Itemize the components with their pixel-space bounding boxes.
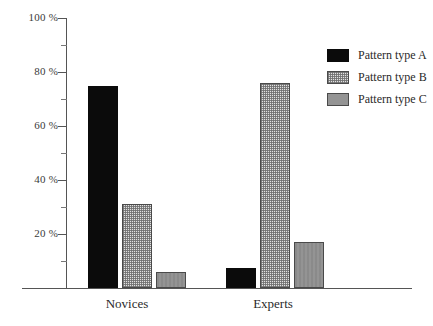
legend: Pattern type A Pattern type B Pattern ty… [327, 44, 427, 110]
bar-chart: 100 %80 %60 %40 %20 % Novices Experts Pa… [0, 0, 433, 326]
bar-novices-pattern-type-b [122, 204, 152, 288]
legend-label-pattern-c: Pattern type C [358, 93, 427, 106]
y-axis-minor-tick [61, 99, 67, 100]
solid-black-swatch-icon [327, 49, 349, 62]
x-axis-label-experts: Experts [213, 296, 333, 311]
legend-item-pattern-a: Pattern type A [327, 44, 427, 66]
solid-gray-swatch-icon [327, 93, 349, 106]
bar-experts-pattern-type-b [260, 83, 290, 288]
y-axis-major-tick [58, 180, 67, 181]
y-axis-major-tick [58, 126, 67, 127]
legend-item-pattern-b: Pattern type B [327, 66, 427, 88]
y-axis-minor-tick [61, 45, 67, 46]
y-axis-tick-label: 80 % [10, 66, 58, 77]
y-axis-tick-label: 40 % [10, 174, 58, 185]
legend-label-pattern-b: Pattern type B [358, 71, 427, 84]
x-axis-line [22, 288, 412, 289]
bar-novices-pattern-type-c [156, 272, 186, 288]
x-axis-label-novices: Novices [67, 296, 187, 311]
y-axis-tick-label: 100 % [10, 12, 58, 23]
y-axis-minor-tick [61, 153, 67, 154]
y-axis-minor-tick [61, 261, 67, 262]
legend-item-pattern-c: Pattern type C [327, 88, 427, 110]
y-axis-major-tick [58, 18, 67, 19]
legend-label-pattern-a: Pattern type A [358, 49, 427, 62]
bar-experts-pattern-type-c [294, 242, 324, 288]
y-axis-major-tick [58, 72, 67, 73]
y-axis-minor-tick [61, 207, 67, 208]
y-axis-major-tick [58, 234, 67, 235]
bar-novices-pattern-type-a [88, 86, 118, 289]
y-axis-tick-label: 60 % [10, 120, 58, 131]
y-axis-tick-label: 20 % [10, 228, 58, 239]
bar-experts-pattern-type-a [226, 268, 256, 288]
dotted-light-swatch-icon [327, 71, 349, 84]
